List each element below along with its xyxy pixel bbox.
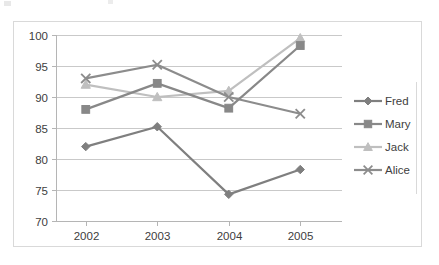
- square-marker: [296, 42, 304, 50]
- legend-label: Jack: [385, 141, 409, 153]
- series-mary: [82, 42, 304, 114]
- triangle-marker: [296, 34, 305, 42]
- legend-label: Alice: [385, 164, 410, 176]
- legend-item-alice[interactable]: Alice: [354, 164, 410, 176]
- gridlines: [56, 36, 342, 222]
- legend-item-jack[interactable]: Jack: [354, 141, 409, 153]
- y-tick-label: 80: [35, 154, 48, 166]
- scan-artifact-left: [4, 1, 11, 6]
- legend-item-mary[interactable]: Mary: [354, 118, 411, 130]
- line-chart: 707580859095100 2002200320042005 FredMar…: [14, 22, 421, 246]
- y-tick-label: 70: [35, 216, 48, 228]
- legend-label: Fred: [385, 95, 409, 107]
- y-tick-label: 75: [35, 185, 48, 197]
- y-tick-label: 95: [35, 61, 48, 73]
- y-tick-label: 100: [29, 30, 48, 42]
- square-marker: [364, 120, 371, 127]
- square-marker: [82, 106, 90, 114]
- y-axis: 707580859095100: [29, 30, 57, 228]
- x-tick-label: 2002: [74, 230, 100, 242]
- square-marker: [225, 104, 233, 112]
- scan-artifact-right: [108, 0, 113, 4]
- diamond-marker: [296, 165, 304, 173]
- data-series: [81, 34, 305, 199]
- x-tick-label: 2005: [288, 230, 314, 242]
- x-tick-label: 2003: [145, 230, 171, 242]
- series-jack: [81, 34, 305, 101]
- x-tick-label: 2004: [217, 230, 243, 242]
- y-tick-label: 90: [35, 92, 48, 104]
- diamond-marker: [364, 97, 372, 105]
- series-fred: [82, 123, 305, 199]
- y-tick-label: 85: [35, 123, 48, 135]
- legend: FredMaryJackAlice: [354, 82, 417, 194]
- square-marker: [153, 79, 161, 87]
- x-axis: 2002200320042005: [56, 221, 342, 242]
- legend-item-fred[interactable]: Fred: [354, 95, 409, 107]
- diamond-marker: [82, 142, 90, 150]
- chart-frame: 707580859095100 2002200320042005 FredMar…: [13, 21, 422, 247]
- legend-label: Mary: [385, 118, 411, 130]
